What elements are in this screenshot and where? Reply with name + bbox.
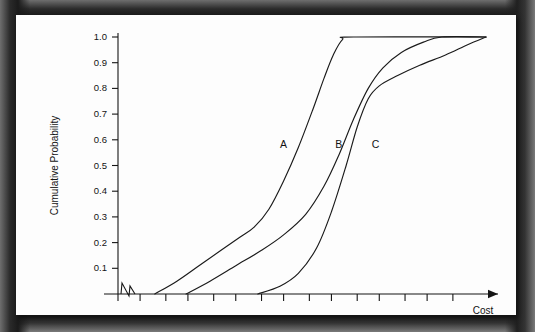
y-axis-title: Cumulative Probability bbox=[49, 116, 60, 216]
curve-series-group bbox=[155, 37, 486, 294]
curve-label-b: B bbox=[335, 138, 342, 150]
y-axis-tick-label: 0.2 bbox=[94, 237, 107, 248]
plot-card: 0.10.20.30.40.50.60.70.80.91.0 ABC Cost … bbox=[16, 15, 516, 315]
curve-label-c: C bbox=[372, 138, 380, 150]
y-axis-tick-label: 0.9 bbox=[94, 57, 107, 68]
cumulative-probability-chart: 0.10.20.30.40.50.60.70.80.91.0 ABC Cost … bbox=[16, 15, 516, 315]
curve-labels-group: ABC bbox=[280, 138, 380, 150]
y-axis-tick-label: 0.7 bbox=[94, 108, 107, 119]
curve-c bbox=[258, 37, 486, 294]
y-axis-tick-label: 0.4 bbox=[94, 185, 107, 196]
y-axis-tick-label: 0.8 bbox=[94, 82, 107, 93]
figure-root: 0.10.20.30.40.50.60.70.80.91.0 ABC Cost … bbox=[0, 0, 535, 332]
x-axis-ticks bbox=[118, 294, 453, 301]
y-axis-tick-label: 0.3 bbox=[94, 211, 107, 222]
y-axis-tick-label: 0.1 bbox=[94, 262, 107, 273]
curve-b bbox=[186, 37, 486, 294]
y-axis-tick-label: 0.6 bbox=[94, 134, 107, 145]
x-axis-title: Cost bbox=[473, 305, 494, 315]
y-axis-tick-label: 1.0 bbox=[94, 31, 107, 42]
curve-label-a: A bbox=[280, 138, 287, 150]
x-axis-arrow-icon bbox=[488, 290, 498, 298]
y-axis-tick-label: 0.5 bbox=[94, 160, 107, 171]
y-axis-ticks bbox=[112, 37, 118, 268]
curve-a bbox=[155, 37, 486, 294]
y-axis-tick-labels: 0.10.20.30.40.50.60.70.80.91.0 bbox=[94, 31, 107, 273]
